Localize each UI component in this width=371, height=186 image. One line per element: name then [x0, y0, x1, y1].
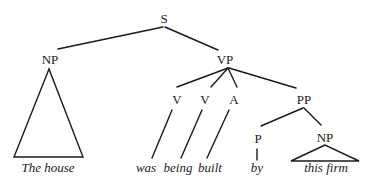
edge-vp-pp — [229, 68, 296, 88]
edge-s-vp — [165, 27, 218, 50]
leaf-by: by — [251, 160, 264, 175]
leaf-the-house: The house — [21, 160, 74, 175]
edge-pp-p — [261, 108, 303, 126]
node-pp: PP — [297, 92, 311, 107]
edge-s-np — [58, 27, 163, 49]
node-s: S — [160, 11, 167, 26]
node-np-subject: NP — [42, 52, 59, 67]
edge-vp-a — [228, 68, 237, 87]
tree-leaves: The house was being built by this firm — [21, 160, 347, 175]
edge-v1-was — [152, 110, 172, 158]
leaf-built: built — [198, 160, 222, 175]
np-object-triangle — [291, 145, 359, 161]
node-np-object: NP — [317, 130, 334, 145]
leaf-was: was — [136, 160, 156, 175]
syntax-tree-diagram: S NP VP V V A PP P NP The house was bein… — [0, 0, 371, 186]
node-p: P — [254, 131, 261, 146]
node-v-was: V — [172, 92, 182, 107]
leaf-being: being — [164, 160, 193, 175]
np-subject-triangle — [14, 69, 83, 157]
edge-a-built — [207, 110, 229, 158]
node-vp: VP — [217, 52, 234, 67]
node-a: A — [229, 92, 239, 107]
leaf-this-firm: this firm — [304, 160, 348, 175]
node-v-being: V — [200, 92, 210, 107]
tree-nodes: S NP VP V V A PP P NP — [42, 11, 334, 146]
edge-pp-np — [304, 108, 321, 125]
edge-v2-being — [181, 110, 202, 158]
